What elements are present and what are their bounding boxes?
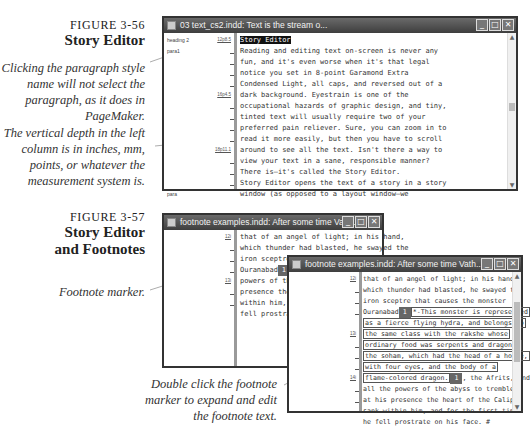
- footnote-text[interactable]: the same class with the rakshe whose: [363, 329, 510, 339]
- depth-marker: 12i: [225, 234, 231, 239]
- scroll-down-arrow[interactable]: ▼: [508, 181, 516, 189]
- footnote-text[interactable]: the soham, which had the head of a horse…: [363, 351, 530, 361]
- footnote-text[interactable]: as a fierce flying hydra, and belongs to: [363, 318, 526, 328]
- footnote-text[interactable]: ordinary food was serpents and dragons;: [363, 340, 522, 350]
- app-icon: [167, 218, 176, 227]
- style-name-para1[interactable]: para1: [167, 48, 180, 54]
- caption-expand-footnote: Double click the footnote marker to expa…: [127, 376, 277, 424]
- title-bar[interactable]: footnote examples.indd: After some time …: [289, 257, 521, 272]
- scroll-down-arrow[interactable]: ▼: [513, 403, 521, 411]
- scroll-up-arrow[interactable]: ▲: [508, 33, 516, 41]
- maximize-button[interactable]: □: [355, 216, 367, 228]
- style-gutter: 12i 13i: [164, 230, 237, 366]
- minimize-button[interactable]: _: [481, 258, 493, 270]
- footnote-text[interactable]: flame-colored dragon.: [363, 373, 450, 383]
- figure-number: FIGURE 3-57: [70, 210, 145, 225]
- story-text[interactable]: that of an angel of light; in his hand, …: [363, 274, 530, 428]
- footnote-story-window-front[interactable]: footnote examples.indd: After some time …: [287, 255, 523, 413]
- maximize-button[interactable]: □: [494, 258, 506, 270]
- figure-number: FIGURE 3-56: [70, 18, 145, 33]
- close-button[interactable]: ✕: [507, 258, 519, 270]
- depth-marker: 13i: [225, 278, 231, 283]
- story-text[interactable]: Story Editor Reading and editing text on…: [240, 35, 506, 200]
- vertical-scrollbar[interactable]: ▲ ▼: [512, 272, 521, 411]
- scroll-up-arrow[interactable]: ▲: [513, 272, 521, 280]
- style-name-para[interactable]: para: [167, 191, 177, 197]
- depth-marker: 18p11.1: [215, 147, 231, 152]
- window-title: 03 text_cs2.indd: Text is the stream o..…: [180, 20, 327, 30]
- close-button[interactable]: ✕: [502, 19, 514, 31]
- style-name-heading2[interactable]: heading 2: [167, 37, 189, 43]
- vertical-scrollbar[interactable]: ▲ ▼: [507, 33, 516, 189]
- scroll-thumb[interactable]: [509, 103, 515, 111]
- story-editor-window[interactable]: 03 text_cs2.indd: Text is the stream o..…: [162, 16, 518, 191]
- figure-title-line2: and Footnotes: [55, 241, 145, 258]
- window-title: footnote examples.indd: After some time …: [305, 259, 483, 269]
- minimize-button[interactable]: _: [342, 216, 354, 228]
- depth-marker: 13i: [350, 331, 356, 336]
- app-icon: [167, 21, 176, 30]
- window-title: footnote examples.indd: After some time …: [180, 217, 358, 227]
- figure-title-line1: Story Editor: [65, 224, 145, 241]
- figure-title: Story Editor: [65, 32, 145, 49]
- depth-marker: 12p8.5: [217, 37, 231, 42]
- caption-vertical-depth: The vertical depth in the left column is…: [0, 125, 145, 189]
- style-gutter: heading 2 para1 para 12p8.5 16p4.5 18p11…: [164, 33, 237, 189]
- heading-line: Story Editor: [240, 36, 291, 44]
- close-button[interactable]: ✕: [368, 216, 380, 228]
- maximize-button[interactable]: □: [489, 19, 501, 31]
- style-gutter: 12i 13i 14i: [289, 272, 362, 411]
- scroll-thumb[interactable]: [514, 302, 520, 362]
- depth-marker: 12i: [350, 276, 356, 281]
- title-bar[interactable]: 03 text_cs2.indd: Text is the stream o..…: [164, 18, 516, 33]
- footnote-marker-open[interactable]: 1: [399, 307, 411, 318]
- footnote-marker-close[interactable]: 1: [450, 373, 462, 384]
- caption-style-name: Clicking the paragraph style name will n…: [0, 60, 145, 124]
- app-icon: [292, 260, 301, 269]
- caption-footnote-marker: Footnote marker.: [0, 284, 145, 300]
- depth-marker: 14i: [350, 375, 356, 380]
- minimize-button[interactable]: _: [476, 19, 488, 31]
- footnote-text[interactable]: with four eyes, and the body of a: [363, 362, 498, 372]
- depth-marker: 16p4.5: [217, 92, 231, 97]
- title-bar[interactable]: footnote examples.indd: After some time …: [164, 215, 382, 230]
